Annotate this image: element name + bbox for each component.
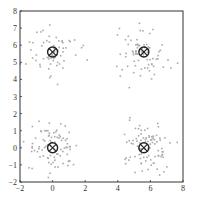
sample-point — [140, 153, 142, 155]
sample-point — [61, 140, 63, 142]
sample-point — [126, 142, 128, 144]
sample-point — [137, 47, 139, 49]
sample-point — [69, 160, 71, 162]
sample-point — [35, 60, 37, 62]
sample-point — [147, 141, 149, 143]
sample-point — [81, 47, 83, 49]
sample-point — [161, 44, 163, 46]
sample-point — [177, 62, 179, 64]
sample-point — [138, 154, 140, 156]
sample-point — [124, 134, 126, 136]
sample-point — [117, 34, 119, 36]
sample-point — [48, 58, 50, 60]
sample-point — [47, 57, 49, 59]
sample-point — [154, 156, 156, 158]
sample-point — [38, 121, 40, 123]
sample-point — [41, 131, 43, 133]
sample-point — [156, 59, 158, 61]
sample-point — [60, 123, 62, 125]
sample-point — [64, 147, 66, 149]
sample-point — [59, 136, 61, 138]
sample-point — [59, 63, 61, 65]
sample-point — [152, 138, 154, 140]
sample-point — [116, 66, 118, 68]
sample-point — [146, 157, 148, 159]
y-tick-label: 4 — [13, 75, 17, 84]
sample-point — [146, 137, 148, 139]
sample-point — [131, 143, 133, 145]
sample-point — [31, 147, 33, 149]
sample-point — [166, 166, 168, 168]
sample-point — [48, 162, 50, 164]
sample-point — [129, 117, 131, 119]
sample-point — [128, 140, 130, 142]
y-tick-label: 3 — [13, 93, 17, 102]
sample-point — [36, 32, 38, 34]
sample-point — [36, 54, 38, 56]
sample-point — [156, 168, 158, 170]
y-tick-label: −1 — [8, 161, 17, 170]
sample-point — [56, 129, 58, 131]
sample-point — [133, 54, 135, 56]
sample-point — [127, 44, 129, 46]
sample-point — [45, 130, 47, 132]
sample-point — [32, 126, 34, 128]
y-tick-label: 2 — [13, 110, 17, 119]
sample-point — [53, 45, 55, 47]
sample-point — [127, 66, 129, 68]
sample-point — [37, 151, 39, 153]
sample-point — [74, 39, 76, 41]
sample-point — [142, 30, 144, 32]
sample-point — [23, 141, 25, 143]
sample-point — [157, 55, 159, 57]
sample-point — [149, 33, 151, 35]
sample-point — [128, 35, 130, 37]
sample-point — [42, 30, 44, 32]
sample-point — [136, 138, 138, 140]
sample-point — [162, 154, 164, 156]
sample-point — [54, 166, 56, 168]
sample-point — [151, 63, 153, 65]
sample-point — [64, 125, 66, 127]
sample-point — [152, 142, 154, 144]
sample-point — [56, 37, 58, 39]
sample-point — [54, 136, 56, 138]
sample-point — [49, 122, 51, 124]
sample-point — [150, 139, 152, 141]
sample-point — [147, 52, 149, 54]
sample-point — [65, 47, 67, 49]
sample-point — [52, 162, 54, 164]
sample-point — [150, 159, 152, 161]
sample-point — [135, 65, 137, 67]
sample-point — [170, 67, 172, 69]
sample-point — [149, 70, 151, 72]
sample-point — [73, 164, 75, 166]
sample-point — [45, 146, 47, 148]
sample-point — [143, 137, 145, 139]
sample-point — [49, 172, 51, 174]
sample-point — [141, 130, 143, 132]
sample-point — [47, 130, 49, 132]
sample-point — [145, 141, 147, 143]
sample-point — [58, 40, 60, 42]
sample-point — [65, 140, 67, 142]
sample-point — [158, 51, 160, 53]
y-tick-label: 8 — [13, 7, 17, 16]
sample-point — [125, 56, 127, 58]
sample-point — [169, 142, 171, 144]
sample-point — [35, 137, 37, 139]
sample-point — [39, 146, 41, 148]
sample-point — [61, 40, 63, 42]
sample-point — [159, 137, 161, 139]
sample-point — [62, 151, 64, 153]
sample-point — [55, 131, 57, 133]
sample-point — [137, 54, 139, 56]
sample-point — [62, 163, 64, 165]
sample-point — [62, 47, 64, 49]
sample-point — [152, 29, 154, 31]
sample-point — [153, 66, 155, 68]
sample-point — [157, 123, 159, 125]
sample-point — [147, 59, 149, 61]
sample-point — [67, 165, 69, 167]
sample-point — [129, 87, 131, 89]
